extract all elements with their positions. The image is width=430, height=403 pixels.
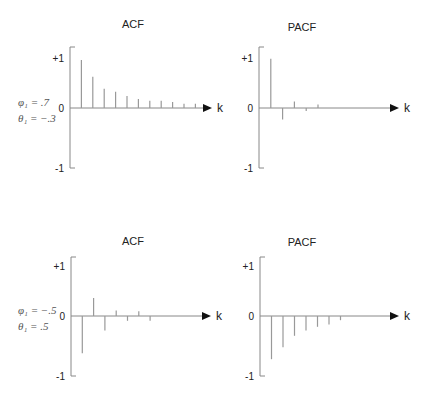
panel-title: PACF	[288, 21, 317, 33]
panel-acf-0: ACF+10-1kφ₁ = .7θ₁ = −.3	[18, 18, 224, 174]
y-tick-label: +1	[243, 261, 255, 272]
panel-pacf-3: PACF+10-1k	[243, 236, 411, 382]
y-tick-label: +1	[53, 53, 65, 64]
panel-title: ACF	[122, 235, 144, 247]
x-axis-arrow-icon	[390, 104, 399, 112]
y-tick-label: 0	[59, 311, 65, 322]
theta-parameter: θ₁ = .5	[18, 320, 49, 332]
x-axis-arrow-icon	[390, 312, 399, 320]
y-tick-label: 0	[248, 311, 254, 322]
theta-parameter: θ₁ = −.3	[18, 112, 56, 124]
acf-pacf-figure: ACF+10-1kφ₁ = .7θ₁ = −.3PACF+10-1kACF+10…	[0, 0, 430, 403]
panel-title: PACF	[288, 236, 317, 248]
x-axis-label: k	[216, 309, 223, 323]
x-axis-label: k	[217, 101, 224, 115]
y-tick-label: -1	[244, 163, 253, 174]
x-axis-arrow-icon	[202, 312, 211, 320]
phi-parameter: φ₁ = −.5	[18, 304, 57, 316]
panel-title: ACF	[122, 18, 144, 30]
y-tick-label: -1	[55, 163, 64, 174]
phi-parameter: φ₁ = .7	[18, 96, 50, 108]
y-tick-label: -1	[56, 371, 65, 382]
y-tick-label: +1	[54, 261, 66, 272]
x-axis-label: k	[404, 101, 411, 115]
y-tick-label: +1	[242, 53, 254, 64]
panel-acf-2: ACF+10-1kφ₁ = −.5θ₁ = .5	[18, 235, 223, 382]
x-axis-label: k	[404, 309, 411, 323]
x-axis-arrow-icon	[203, 104, 212, 112]
y-tick-label: 0	[247, 103, 253, 114]
y-tick-label: 0	[58, 103, 64, 114]
y-tick-label: -1	[245, 371, 254, 382]
panel-pacf-1: PACF+10-1k	[242, 21, 411, 174]
